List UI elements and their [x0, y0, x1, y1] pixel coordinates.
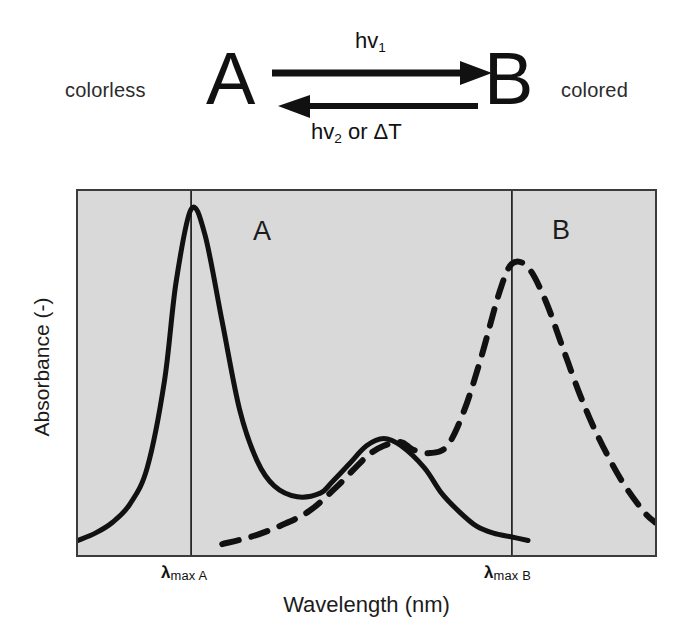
y-axis-title: Absorbance (-): [30, 217, 54, 517]
lambda-sub-b: max B: [493, 568, 531, 583]
x-tick-label-lambda-max-a: λmax A: [161, 563, 207, 583]
arrow-left-icon: [278, 95, 478, 118]
series-curve-a: [78, 207, 528, 540]
spectrum-line-b: [222, 261, 655, 544]
lambda-sub-a: max A: [170, 568, 207, 583]
reverse-reaction-caption: hv2 or ΔT: [311, 119, 402, 145]
series-annotation-a: A: [253, 216, 271, 247]
series-annotation-b: B: [552, 215, 570, 246]
reverse-caption-tail: or ΔT: [342, 119, 402, 144]
reverse-caption-subscript: 2: [334, 131, 342, 146]
reverse-caption-text: hv: [311, 119, 334, 144]
x-axis-title: Wavelength (nm): [76, 592, 657, 618]
x-tick-label-lambda-max-b: λmax B: [484, 563, 531, 583]
series-curve-b: [222, 261, 655, 544]
spectrum-line-a: [78, 207, 528, 540]
reaction-scheme: colorless A hv1 hv2 or ΔT B colored: [0, 0, 690, 170]
arrow-right-icon: [272, 61, 492, 85]
x-axis-tick-marks: [191, 191, 512, 555]
species-label-b: B: [484, 42, 533, 116]
state-label-colored: colored: [561, 79, 628, 102]
photochromism-figure: colorless A hv1 hv2 or ΔT B colored: [0, 0, 690, 643]
